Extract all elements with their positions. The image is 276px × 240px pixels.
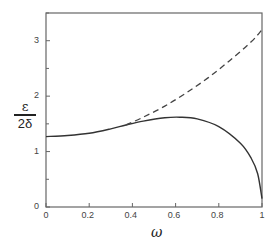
x-tick-label: 1 (259, 211, 264, 220)
x-tick-label: 0.4 (125, 211, 138, 220)
plot-area (0, 0, 276, 240)
y-axis-label: ε 2δ (14, 100, 36, 131)
y-tick-label: 0 (34, 202, 39, 211)
y-tick-label: 1 (34, 147, 39, 156)
x-tick-label: 0 (43, 211, 48, 220)
y-tick-label: 3 (34, 36, 39, 45)
axes-frame (46, 13, 262, 207)
solid-curve (46, 117, 262, 199)
x-tick-label: 0.8 (211, 211, 224, 220)
y-label-denominator: 2δ (14, 117, 36, 131)
x-tick-label: 0.6 (168, 211, 181, 220)
x-ticks (46, 203, 262, 207)
y-tick-label: 2 (34, 91, 39, 100)
dashed-curve (126, 30, 262, 125)
x-axis-label: ω (151, 224, 162, 240)
y-label-numerator: ε (14, 100, 36, 113)
x-tick-label: 0.2 (81, 211, 94, 220)
